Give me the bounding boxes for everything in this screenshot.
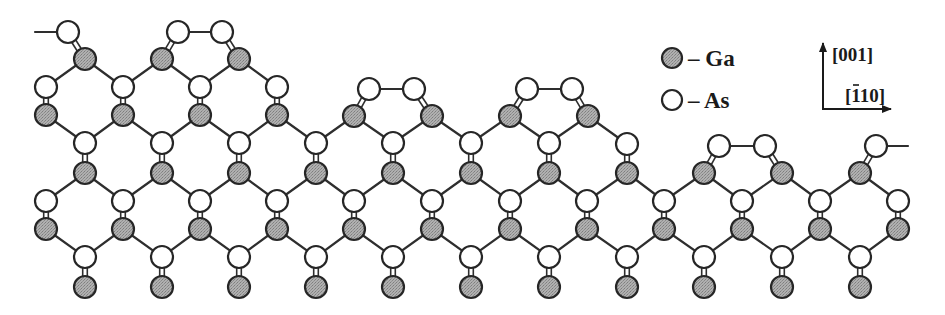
ga-atom-icon [266, 104, 288, 126]
ga-atom-icon [74, 162, 96, 184]
ga-atom-icon [343, 105, 365, 127]
as-atom-icon [382, 246, 404, 268]
as-atom-icon [305, 246, 327, 268]
ga-atom-icon [228, 162, 250, 184]
axis-label-001: [001] [832, 44, 873, 65]
axis-label-bar110: [110] [845, 85, 885, 106]
ga-atom-icon [74, 276, 96, 298]
as-atom-icon [887, 190, 909, 212]
ga-atom-icon [343, 218, 365, 240]
ga-atom-icon [662, 48, 682, 68]
ga-atom-icon [849, 276, 871, 298]
ga-atom-icon [74, 48, 96, 70]
as-atom-icon [693, 246, 715, 268]
ga-atom-icon [189, 218, 211, 240]
ga-atom-icon [849, 162, 871, 184]
ga-atom-icon [460, 276, 482, 298]
as-atom-icon [74, 246, 96, 268]
as-atom-icon [189, 190, 211, 212]
as-atom-icon [382, 132, 404, 154]
ga-atom-icon [151, 162, 173, 184]
as-atom-icon [460, 132, 482, 154]
as-atom-icon [266, 190, 288, 212]
ga-atom-icon [189, 104, 211, 126]
ga-atom-icon [576, 218, 598, 240]
as-atom-icon [754, 135, 776, 157]
ga-atom-icon [771, 162, 793, 184]
gaas-surface-diagram: – Ga – As [001] [110] [0, 0, 945, 315]
as-atom-icon [771, 246, 793, 268]
ga-atom-icon [653, 218, 675, 240]
as-atom-icon [228, 246, 250, 268]
as-atom-icon [538, 132, 560, 154]
as-atom-icon [849, 246, 871, 268]
ga-atom-icon [421, 105, 443, 127]
as-atom-icon [74, 132, 96, 154]
as-atom-icon [616, 133, 638, 155]
ga-atom-icon [151, 276, 173, 298]
ga-atom-icon [616, 162, 638, 184]
ga-atom-icon [809, 218, 831, 240]
as-atom-icon [358, 78, 380, 100]
ga-atom-icon [499, 218, 521, 240]
ga-atom-icon [538, 162, 560, 184]
as-atom-icon [662, 90, 682, 110]
as-atom-icon [167, 21, 189, 43]
as-atom-icon [189, 76, 211, 98]
ga-atom-icon [228, 48, 250, 70]
as-atom-icon [228, 132, 250, 154]
as-atom-icon [731, 190, 753, 212]
ga-atom-icon [112, 104, 134, 126]
as-atom-icon [708, 135, 730, 157]
ga-atom-icon [499, 105, 521, 127]
legend-label-ga: – Ga [687, 46, 735, 71]
ga-atom-icon [35, 218, 57, 240]
as-atom-icon [57, 21, 79, 43]
as-atom-icon [35, 190, 57, 212]
legend-label-as: – As [687, 88, 730, 113]
as-atom-icon [151, 246, 173, 268]
as-atom-icon [865, 135, 887, 157]
as-atom-icon [343, 190, 365, 212]
as-atom-icon [538, 246, 560, 268]
as-atom-icon [616, 246, 638, 268]
ga-atom-icon [460, 162, 482, 184]
ga-atom-icon [382, 162, 404, 184]
ga-atom-icon [538, 276, 560, 298]
as-atom-icon [653, 190, 675, 212]
ga-atom-icon [731, 218, 753, 240]
ga-atom-icon [305, 276, 327, 298]
as-atom-icon [576, 190, 598, 212]
ga-atom-icon [112, 218, 134, 240]
crystal-structure-canvas: – Ga – As [001] [110] [0, 0, 945, 315]
as-atom-icon [35, 76, 57, 98]
ga-atom-icon [616, 276, 638, 298]
ga-atom-icon [266, 218, 288, 240]
as-atom-icon [151, 132, 173, 154]
atoms-layer [35, 21, 909, 298]
ga-atom-icon [887, 218, 909, 240]
ga-atom-icon [693, 276, 715, 298]
legend: – Ga – As [662, 46, 735, 113]
as-atom-icon [211, 21, 233, 43]
ga-atom-icon [305, 162, 327, 184]
ga-atom-icon [577, 105, 599, 127]
as-atom-icon [561, 78, 583, 100]
ga-atom-icon [382, 276, 404, 298]
ga-atom-icon [421, 218, 443, 240]
ga-atom-icon [228, 276, 250, 298]
as-atom-icon [499, 190, 521, 212]
as-atom-icon [516, 78, 538, 100]
as-atom-icon [421, 190, 443, 212]
ga-atom-icon [151, 48, 173, 70]
as-atom-icon [266, 76, 288, 98]
ga-atom-icon [771, 276, 793, 298]
as-atom-icon [460, 246, 482, 268]
as-atom-icon [112, 190, 134, 212]
legend-item-ga: – Ga [662, 46, 735, 71]
as-atom-icon [305, 132, 327, 154]
legend-item-as: – As [662, 88, 730, 113]
ga-atom-icon [35, 104, 57, 126]
as-atom-icon [809, 190, 831, 212]
as-atom-icon [112, 76, 134, 98]
